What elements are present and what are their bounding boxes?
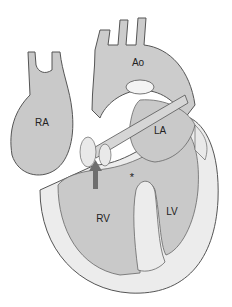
label-rv: RV [96, 213, 110, 224]
label-ra: RA [35, 117, 49, 128]
label-lv: LV [166, 206, 178, 217]
star-marker: * [130, 171, 134, 183]
heart-diagram [0, 0, 232, 307]
pulmonary-valve-opening [126, 80, 154, 94]
ra-chamber [11, 52, 73, 175]
label-la: LA [154, 125, 166, 136]
tricuspid-leaflet [80, 137, 96, 167]
valve-leaflet [99, 144, 111, 166]
label-ao: Ao [132, 57, 144, 68]
